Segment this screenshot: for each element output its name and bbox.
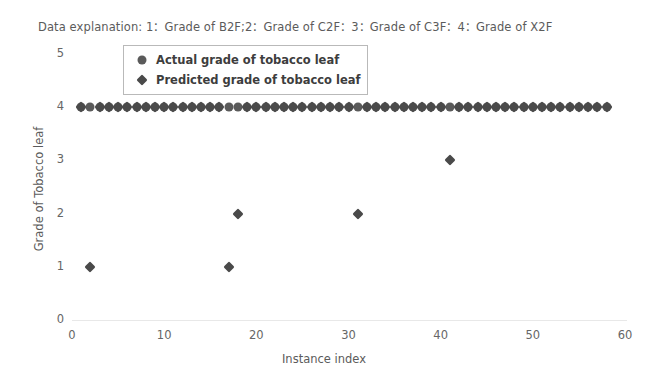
- x-tick-label: 30: [329, 330, 369, 342]
- legend-item-predicted[interactable]: Predicted grade of tobacco leaf: [133, 70, 360, 90]
- data-point-predicted: [76, 102, 87, 113]
- legend-item-actual[interactable]: Actual grade of tobacco leaf: [133, 50, 339, 70]
- y-tick-label: 3: [38, 155, 64, 167]
- x-tick-label: 0: [52, 330, 92, 342]
- data-point-predicted: [444, 155, 455, 166]
- y-axis-tick-labels: 543210: [20, 0, 64, 381]
- data-point-actual: [86, 103, 95, 112]
- data-point-predicted: [232, 208, 243, 219]
- y-tick-label: 2: [38, 208, 64, 220]
- y-tick-label: 1: [38, 261, 64, 273]
- legend-label-predicted: Predicted grade of tobacco leaf: [156, 73, 360, 87]
- chart-caption: Data explanation: 1：Grade of B2F;2：Grade…: [38, 18, 552, 34]
- x-tick-label: 20: [236, 330, 276, 342]
- x-axis-tick-labels: 0102030405060: [0, 330, 648, 346]
- x-tick-label: 50: [513, 330, 553, 342]
- data-point-predicted: [214, 102, 225, 113]
- x-axis-line: [72, 320, 627, 321]
- x-tick-label: 10: [144, 330, 184, 342]
- scatter-chart-figure: Data explanation: 1：Grade of B2F;2：Grade…: [0, 0, 648, 381]
- diamond-marker-icon: [133, 71, 151, 89]
- chart-legend: Actual grade of tobacco leaf Predicted g…: [123, 45, 368, 95]
- data-point-predicted: [352, 208, 363, 219]
- data-point-predicted: [85, 261, 96, 272]
- data-point-predicted: [223, 261, 234, 272]
- y-tick-label: 5: [38, 48, 64, 60]
- data-point-actual: [224, 103, 233, 112]
- legend-label-actual: Actual grade of tobacco leaf: [156, 53, 339, 67]
- circle-marker-icon: [133, 51, 151, 69]
- y-tick-label: 0: [38, 314, 64, 326]
- y-tick-label: 4: [38, 101, 64, 113]
- x-tick-label: 60: [605, 330, 645, 342]
- x-axis-title: Instance index: [0, 352, 648, 366]
- x-tick-label: 40: [421, 330, 461, 342]
